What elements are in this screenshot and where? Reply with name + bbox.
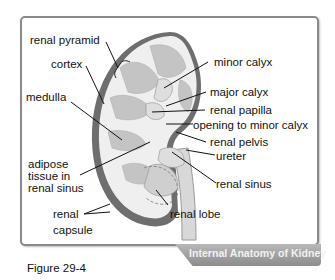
label-renal-capsule-line2: capsule: [53, 224, 93, 236]
label-opening-to-minor-calyx: opening to minor calyx: [193, 119, 308, 131]
label-renal-sinus: renal sinus: [216, 178, 272, 190]
figure-caption: Figure 29-4: [27, 262, 86, 274]
label-renal-lobe: renal lobe: [170, 208, 221, 220]
label-adipose-line3: renal sinus: [28, 182, 84, 194]
label-minor-calyx: minor calyx: [214, 56, 272, 68]
label-medulla: medulla: [26, 91, 66, 103]
label-renal-papilla: renal papilla: [210, 104, 272, 116]
label-adipose-line2: tissue in: [28, 170, 70, 182]
title-banner-text: Internal Anatomy of Kidney: [189, 247, 310, 259]
label-adipose-line1: adipose: [28, 158, 68, 170]
label-renal-pyramid: renal pyramid: [30, 34, 100, 46]
label-renal-capsule-line1: renal: [53, 208, 79, 220]
label-cortex: cortex: [51, 58, 82, 70]
label-renal-pelvis: renal pelvis: [210, 136, 268, 148]
label-ureter: ureter: [216, 150, 246, 162]
label-major-calyx: major calyx: [210, 86, 268, 98]
